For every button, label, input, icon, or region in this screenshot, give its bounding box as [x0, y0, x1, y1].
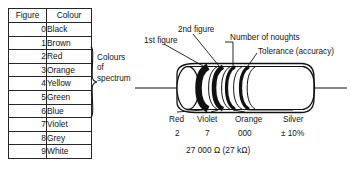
callout-second-figure: 2nd figure [178, 25, 214, 34]
band-name-3: Orange [235, 115, 262, 124]
cell-figure: 4 [9, 77, 47, 91]
cell-figure: 5 [9, 90, 47, 104]
callout-noughts: Number of noughts [230, 33, 300, 42]
table-header-row: Figure Colour [9, 9, 92, 23]
colour-code-table: Figure Colour 0 Black 1 Brown 2 Red 3 Or… [8, 8, 92, 159]
cell-figure: 8 [9, 131, 47, 145]
cell-figure: 9 [9, 145, 47, 159]
cell-figure: 2 [9, 50, 47, 64]
cell-colour: Black [47, 23, 92, 37]
table-row: 4 Yellow [9, 77, 92, 91]
band-name-4: Silver [283, 115, 303, 124]
spectrum-group-label: Colours of spectrum [97, 53, 131, 84]
band-value-4: ± 10% [281, 129, 304, 138]
cell-colour: White [47, 145, 92, 159]
cell-figure: 7 [9, 118, 47, 132]
table-row: 0 Black [9, 23, 92, 37]
cell-colour: Red [47, 50, 92, 64]
band-value-1: 2 [175, 129, 180, 138]
resistor-diagram: 1st figure 2nd figure Number of noughts … [133, 0, 351, 170]
callout-tolerance: Tolerance (accuracy) [258, 47, 334, 56]
callout-first-figure: 1st figure [144, 36, 178, 45]
band-value-2: 7 [205, 129, 210, 138]
column-header-colour: Colour [47, 9, 92, 23]
table-row: 2 Red [9, 50, 92, 64]
band-name-2: Violet [197, 115, 217, 124]
cell-colour: Violet [47, 118, 92, 132]
cell-figure: 0 [9, 23, 47, 37]
band-name-1: Red [169, 115, 184, 124]
table-row: 5 Green [9, 90, 92, 104]
cell-colour: Yellow [47, 77, 92, 91]
table-row: 1 Brown [9, 36, 92, 50]
cell-figure: 1 [9, 36, 47, 50]
cell-colour: Green [47, 90, 92, 104]
cell-figure: 6 [9, 104, 47, 118]
table-row: 7 Violet [9, 118, 92, 132]
table-row: 6 Blue [9, 104, 92, 118]
figure-root: Figure Colour 0 Black 1 Brown 2 Red 3 Or… [0, 0, 351, 170]
cell-colour: Grey [47, 131, 92, 145]
cell-figure: 3 [9, 63, 47, 77]
table-body: 0 Black 1 Brown 2 Red 3 Orange 4 Yellow … [9, 23, 92, 159]
cell-colour: Brown [47, 36, 92, 50]
cell-colour: Blue [47, 104, 92, 118]
table-row: 9 White [9, 145, 92, 159]
table-row: 8 Grey [9, 131, 92, 145]
cell-colour: Orange [47, 63, 92, 77]
total-resistance-value: 27 000 Ω (27 kΩ) [186, 146, 250, 155]
table-row: 3 Orange [9, 63, 92, 77]
band-value-3: 000 [238, 129, 252, 138]
column-header-figure: Figure [9, 9, 47, 23]
